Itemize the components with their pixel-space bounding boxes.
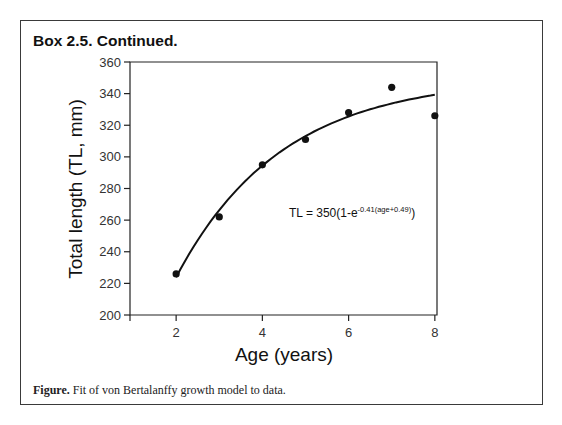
x-axis-title: Age (years) (235, 344, 333, 365)
x-tick-label: 4 (259, 325, 266, 340)
y-tick-label: 360 (99, 55, 121, 70)
x-tick-label: 8 (431, 325, 438, 340)
data-point (388, 84, 395, 91)
data-point (431, 112, 438, 119)
data-points (173, 84, 439, 278)
data-point (345, 109, 352, 116)
equation-close: ) (411, 206, 415, 220)
growth-chart: 200220240260280300320340360 2468 Total l… (0, 0, 562, 425)
data-point (216, 213, 223, 220)
y-tick-label: 280 (99, 181, 121, 196)
y-axis-ticks: 200220240260280300320340360 (99, 55, 130, 323)
data-point (173, 270, 180, 277)
x-tick-label: 2 (173, 325, 180, 340)
x-tick-label: 6 (345, 325, 352, 340)
data-point (259, 161, 266, 168)
y-tick-label: 340 (99, 86, 121, 101)
y-axis-title: Total length (TL, mm) (65, 99, 86, 279)
y-tick-label: 320 (99, 118, 121, 133)
y-tick-label: 260 (99, 213, 121, 228)
y-tick-label: 200 (99, 308, 121, 323)
data-point (302, 136, 309, 143)
equation-annotation: TL = 350(1-e-0.41(age+0.49)) (289, 205, 415, 220)
equation-exponent: -0.41(age+0.49) (358, 205, 412, 214)
fit-curve (176, 95, 435, 277)
y-tick-label: 220 (99, 276, 121, 291)
x-axis-ticks: 2468 (173, 315, 439, 340)
y-tick-label: 300 (99, 149, 121, 164)
equation-main: TL = 350(1-e (289, 206, 358, 220)
y-tick-label: 240 (99, 244, 121, 259)
